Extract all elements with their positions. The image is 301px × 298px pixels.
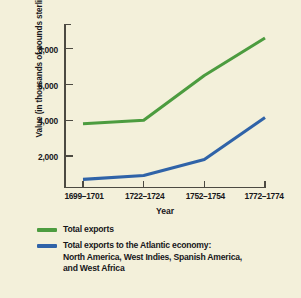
legend-label-total-exports: Total exports <box>63 224 114 235</box>
chart-figure: Value (in thousands of pounds sterling) … <box>0 0 301 298</box>
series-line-atlantic-economy <box>83 117 265 179</box>
legend-label-line: North America, West Indies, Spanish Amer… <box>63 252 242 263</box>
x-tick-label: 1699–1701 <box>51 191 117 201</box>
y-axis-ticks <box>65 49 73 156</box>
y-tick-label: 8,000 <box>24 45 58 55</box>
x-tick-label: 1752–1754 <box>172 191 238 201</box>
series-line-total-exports <box>83 38 265 124</box>
legend-swatch-blue <box>37 244 57 248</box>
x-tick-label: 1722–1724 <box>112 191 178 201</box>
y-tick-label: 2,000 <box>24 152 58 162</box>
legend-label-line: Total exports to the Atlantic economy: <box>63 240 242 251</box>
x-tick-label: 1772–1774 <box>231 191 297 201</box>
chart-canvas <box>64 24 266 188</box>
y-axis-tick-labels: 8,000 6,000 4,000 2,000 <box>22 24 58 188</box>
legend-label-atlantic-economy: Total exports to the Atlantic economy: N… <box>63 240 242 274</box>
legend-label-line: and West Africa <box>63 263 242 274</box>
y-tick-label: 4,000 <box>24 116 58 126</box>
chart-legend: Total exports Total exports to the Atlan… <box>37 224 295 280</box>
legend-item-total-exports: Total exports <box>37 224 295 235</box>
y-tick-label: 6,000 <box>24 81 58 91</box>
legend-item-atlantic-economy: Total exports to the Atlantic economy: N… <box>37 240 295 274</box>
legend-swatch-green <box>37 228 57 232</box>
x-axis-title: Year <box>64 206 266 216</box>
x-axis-tick-labels: 1699–1701 1722–1724 1752–1754 1772–1774 <box>64 191 274 205</box>
legend-label-line: Total exports <box>63 224 114 235</box>
x-axis-ticks <box>83 181 265 188</box>
plot-area <box>64 24 266 188</box>
